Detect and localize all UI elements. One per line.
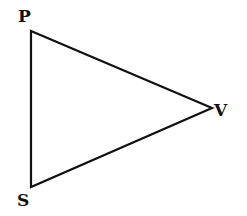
vertex-label-s: S: [17, 190, 29, 210]
vertex-label-p: P: [18, 6, 31, 26]
triangle-diagram: P V S: [0, 0, 247, 216]
vertex-label-v: V: [213, 100, 228, 120]
triangle-pvs: [31, 31, 212, 187]
